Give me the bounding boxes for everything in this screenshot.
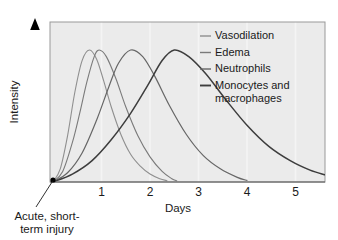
legend-label-3-line2: macrophages <box>215 92 282 104</box>
plot-area-background <box>50 22 325 182</box>
legend-label-0: Vasodilation <box>215 29 274 41</box>
inflammation-time-course-chart: Intensity 12345 Days Acute, short- term … <box>0 0 338 240</box>
x-tick-label-3: 3 <box>195 185 202 199</box>
origin-annotation-line1: Acute, short- <box>14 210 79 222</box>
x-tick-label-5: 5 <box>292 185 299 199</box>
x-tick-label-1: 1 <box>98 185 105 199</box>
x-axis-tick-labels: 12345 <box>98 185 299 199</box>
annotation-leader-line <box>36 181 53 208</box>
legend-label-1: Edema <box>215 46 251 58</box>
legend-label-2: Neutrophils <box>215 62 271 74</box>
chart-svg: Intensity 12345 Days Acute, short- term … <box>0 0 338 240</box>
x-tick-label-4: 4 <box>244 185 251 199</box>
x-axis-title: Days <box>165 202 191 214</box>
origin-marker-dot <box>50 177 55 182</box>
x-tick-label-2: 2 <box>147 185 154 199</box>
y-axis-arrow <box>30 18 40 182</box>
origin-annotation-line2: term injury <box>20 223 74 235</box>
legend-label-3: Monocytes and <box>215 79 290 91</box>
y-axis-title: Intensity <box>8 80 20 123</box>
